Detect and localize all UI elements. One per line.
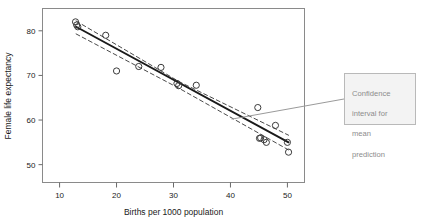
y-tick-label: 50 — [27, 161, 36, 170]
y-axis-ticks — [39, 31, 43, 165]
y-tick-label: 80 — [27, 27, 36, 36]
x-tick-label: 10 — [55, 191, 64, 200]
chart-figure: 50607080 1020304050 Births per 1000 popu… — [0, 0, 421, 223]
y-axis-title: Female life expectancy — [3, 52, 13, 140]
x-tick-label: 40 — [226, 191, 235, 200]
callout-line-4: prediction — [352, 150, 385, 159]
y-tick-label: 70 — [27, 71, 36, 80]
x-axis-ticks — [60, 183, 288, 188]
x-tick-label: 30 — [169, 191, 178, 200]
callout-line-2: interval for — [352, 109, 387, 118]
y-axis-tick-labels: 50607080 — [27, 27, 36, 170]
x-tick-label: 20 — [112, 191, 121, 200]
callout-line-1: Confidence — [352, 89, 390, 98]
confidence-interval-callout: Confidence interval for mean prediction — [344, 73, 416, 125]
x-tick-label: 50 — [283, 191, 292, 200]
x-axis-tick-labels: 1020304050 — [55, 191, 292, 200]
x-axis-title: Births per 1000 population — [124, 207, 224, 217]
y-tick-label: 60 — [27, 116, 36, 125]
plot-frame — [43, 9, 305, 183]
callout-line-3: mean — [352, 129, 371, 138]
